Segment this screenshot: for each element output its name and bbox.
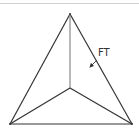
outer-triangle	[10, 14, 132, 124]
arrow-icon	[90, 60, 97, 67]
vertex-bottom-right	[131, 123, 133, 125]
triangle-diagram: FT	[0, 0, 139, 132]
edge-right	[70, 14, 132, 124]
vertex-bottom-left	[9, 123, 11, 125]
edge-interior-left	[10, 88, 70, 124]
vertex-dots	[9, 13, 133, 125]
ft-label: FT	[98, 47, 111, 58]
edge-interior-right	[70, 88, 132, 124]
edge-left	[10, 14, 70, 124]
vertex-apex	[69, 13, 71, 15]
interior-edges	[10, 14, 132, 124]
